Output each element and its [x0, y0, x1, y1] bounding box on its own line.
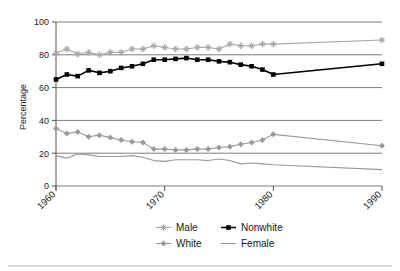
x-tick-label: 1970: [143, 189, 166, 212]
y-tick-label: 20: [39, 149, 49, 159]
data-point: [238, 62, 243, 67]
data-point: [173, 147, 179, 153]
legend-item-nonwhite[interactable]: Nonwhite: [221, 222, 283, 233]
data-point: [118, 49, 124, 55]
data-point: [54, 77, 59, 82]
line-chart: 020406080100 1960197019801990 Percentage…: [0, 0, 400, 271]
legend-label: Female: [241, 238, 275, 249]
data-point: [96, 52, 102, 58]
data-point: [379, 143, 385, 149]
legend-item-white[interactable]: White: [156, 238, 202, 249]
data-point: [162, 57, 167, 62]
data-point: [151, 146, 157, 152]
data-point: [270, 131, 276, 137]
data-point: [194, 44, 200, 50]
legend-item-female[interactable]: Female: [221, 238, 275, 249]
data-point: [118, 137, 124, 143]
data-point: [217, 59, 222, 64]
data-point: [238, 141, 244, 147]
data-point: [65, 72, 70, 77]
data-point: [172, 46, 178, 52]
data-point: [249, 64, 254, 69]
legend-label: Nonwhite: [241, 222, 283, 233]
data-point: [119, 66, 124, 71]
data-point: [183, 147, 189, 153]
x-axis-ticks: 1960197019801990: [35, 186, 384, 211]
x-tick-label: 1980: [252, 189, 275, 212]
data-point: [248, 43, 254, 49]
data-point: [184, 56, 189, 61]
data-point: [85, 49, 91, 55]
x-tick-label: 1960: [35, 189, 58, 212]
legend-label: White: [176, 238, 202, 249]
series-nonwhite: [54, 56, 385, 82]
data-point: [107, 49, 113, 55]
data-point: [271, 72, 276, 77]
data-point: [75, 51, 81, 57]
data-point: [53, 50, 59, 56]
data-series-layer: [53, 37, 385, 170]
data-point: [152, 57, 157, 62]
data-point: [238, 43, 244, 49]
data-point: [75, 129, 81, 135]
legend-diamond-marker: [161, 241, 167, 247]
x-tick-label: 1990: [361, 189, 384, 212]
data-point: [97, 71, 102, 76]
legend-label: Male: [176, 222, 198, 233]
y-tick-label: 60: [39, 83, 49, 93]
data-point: [205, 44, 211, 50]
data-point: [173, 57, 178, 62]
data-point: [161, 44, 167, 50]
y-tick-label: 40: [39, 116, 49, 126]
data-point: [129, 139, 135, 145]
chart-figure: 020406080100 1960197019801990 Percentage…: [0, 0, 400, 271]
data-point: [86, 134, 92, 140]
data-point: [249, 140, 255, 146]
data-point: [151, 43, 157, 49]
y-axis-ticks: 020406080100: [34, 17, 56, 191]
data-point: [227, 144, 233, 150]
data-point: [53, 126, 59, 132]
data-point: [64, 131, 70, 137]
data-point: [141, 62, 146, 67]
legend-item-male[interactable]: Male: [156, 222, 198, 233]
data-point: [227, 41, 233, 47]
data-point: [206, 57, 211, 62]
series-female: [56, 154, 382, 170]
data-point: [194, 146, 200, 152]
data-point: [259, 41, 265, 47]
data-point: [195, 57, 200, 62]
data-point: [270, 41, 276, 47]
series-white: [53, 126, 385, 153]
data-point: [380, 62, 385, 67]
data-point: [260, 67, 265, 72]
data-point: [183, 46, 189, 52]
y-tick-label: 100: [34, 17, 49, 27]
data-point: [205, 146, 211, 152]
data-point: [96, 132, 102, 138]
data-point: [216, 144, 222, 150]
data-point: [129, 46, 135, 52]
data-point: [379, 37, 385, 43]
y-axis-title: Percentage: [18, 84, 28, 130]
legend-star-marker: [160, 224, 166, 230]
series-line: [56, 154, 382, 170]
legend-square-marker: [226, 225, 231, 230]
data-point: [75, 74, 80, 79]
data-point: [108, 69, 113, 74]
bottom-divider: [8, 265, 392, 267]
data-point: [162, 146, 168, 152]
data-point: [64, 46, 70, 52]
chart-legend: MaleNonwhiteWhiteFemale: [156, 222, 283, 249]
data-point: [107, 135, 113, 141]
data-point: [140, 46, 146, 52]
data-point: [228, 60, 233, 65]
y-tick-label: 80: [39, 50, 49, 60]
data-point: [216, 46, 222, 52]
data-point: [140, 140, 146, 146]
data-point: [259, 137, 265, 143]
data-point: [86, 68, 91, 73]
data-point: [130, 64, 135, 69]
